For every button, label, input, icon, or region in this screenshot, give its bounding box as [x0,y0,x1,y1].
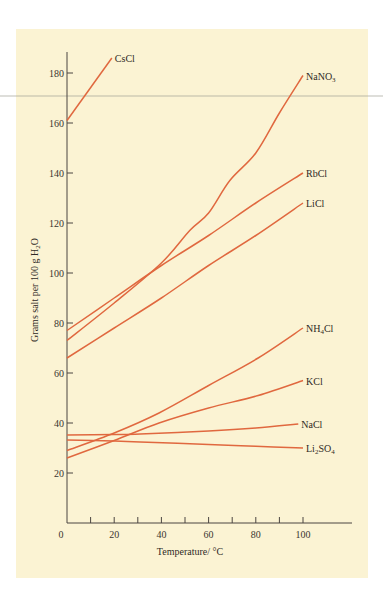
y-tick-label: 160 [49,118,64,129]
series-label-licl: LiCl [306,198,325,209]
series-label-cscl: CsCl [115,53,135,64]
x-tick-label: 0 [59,529,64,540]
series-lines [67,58,303,458]
y-tick-label: 60 [54,368,64,379]
y-tick-label: 140 [49,168,64,179]
y-tick-label: 80 [54,318,64,329]
x-tick-label: 20 [109,529,119,540]
series-line-rbcl [67,173,303,331]
y-axis-title: Grams salt per 100 g H2O [29,238,42,342]
x-tick-label: 80 [251,529,261,540]
series-line-nacl [67,424,298,435]
solubility-chart: 02040608010020406080100120140160180 CsCl… [0,0,383,599]
series-label-rbcl: RbCl [306,168,327,179]
x-tick-label: 40 [156,529,166,540]
series-label-nh4cl: NH4Cl [306,323,334,336]
y-tick-label: 180 [49,68,64,79]
y-tick-label: 120 [49,218,64,229]
series-label-nano3: NaNO3 [306,71,336,84]
series-line-cscl [67,58,112,121]
series-label-nacl: NaCl [301,419,322,430]
series-label-kcl: KCl [306,376,323,387]
series-label-li2so4: Li2SO4 [306,443,335,456]
x-axis-title: Temperature/ °C [157,546,224,557]
series-line-li2so4 [67,440,303,448]
y-tick-label: 20 [54,468,64,479]
x-tick-label: 100 [296,529,311,540]
x-tick-label: 60 [204,529,214,540]
series-line-licl [67,203,303,358]
y-tick-label: 40 [54,418,64,429]
y-tick-label: 100 [49,268,64,279]
axes: 02040608010020406080100120140160180 [49,52,352,540]
series-line-nano3 [67,76,303,341]
